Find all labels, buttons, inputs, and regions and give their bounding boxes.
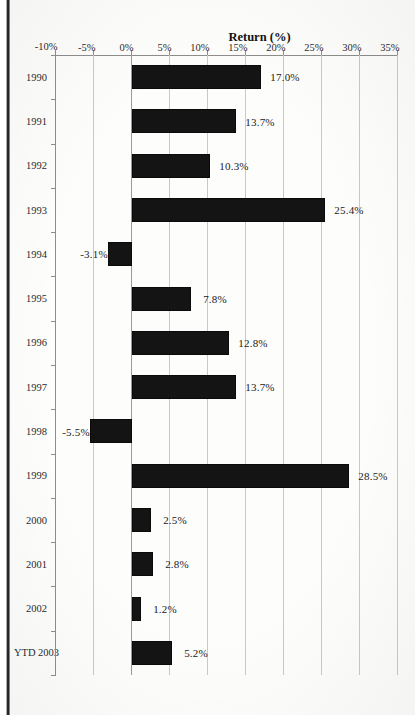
category-label-text: 1993 xyxy=(26,205,47,216)
bar-value-label-text: -5.5% xyxy=(62,425,90,437)
gridline xyxy=(131,55,132,675)
category-axis-line xyxy=(55,55,56,675)
bar-value-label-text: 13.7% xyxy=(245,115,274,127)
category-label: 1991 xyxy=(31,97,42,145)
bar xyxy=(132,287,191,311)
gridline xyxy=(321,55,322,675)
bar xyxy=(132,597,141,621)
value-axis-tick-label: 30% xyxy=(356,28,367,47)
bar xyxy=(90,419,132,443)
value-axis-tick-label-text: 10% xyxy=(190,42,209,53)
category-label-text: 1994 xyxy=(26,249,47,260)
bar-value-label-text: 2.5% xyxy=(163,514,187,526)
gridline xyxy=(359,55,360,675)
category-label: 1996 xyxy=(31,319,42,367)
gridline xyxy=(397,55,398,675)
bar-value-label: 10.3% xyxy=(228,150,240,182)
bar-value-label: 1.2% xyxy=(159,593,171,625)
value-axis-tick-label: -10% xyxy=(52,24,63,47)
category-label: 1990 xyxy=(31,53,42,101)
category-label: 2000 xyxy=(31,496,42,544)
category-label-text: 1991 xyxy=(26,116,47,127)
value-axis-tick-label-text: 30% xyxy=(342,42,361,53)
bar-value-label: 13.7% xyxy=(254,105,266,137)
value-axis-tick-label: 0% xyxy=(128,33,139,47)
bar xyxy=(132,552,153,576)
value-axis-tick-label: 35% xyxy=(394,28,405,47)
bar-value-label-text: 25.4% xyxy=(334,204,363,216)
rotated-chart-wrapper: 35%30%25%20%15%10%5%0%-5%-10% 17.0%13.7%… xyxy=(0,0,415,715)
category-label: 1993 xyxy=(31,186,42,234)
value-axis-tick-label-text: 35% xyxy=(380,42,399,53)
category-label: 1995 xyxy=(31,275,42,323)
gridline xyxy=(283,55,284,675)
value-axis-tick-label-text: 25% xyxy=(304,42,323,53)
category-label: 1994 xyxy=(31,230,42,278)
bar-value-label: 17.0% xyxy=(279,61,291,93)
bar xyxy=(108,242,132,266)
bar-value-label-text: -3.1% xyxy=(81,248,109,260)
category-label-text: 1992 xyxy=(26,160,47,171)
gridline xyxy=(169,55,170,675)
bar-value-label-text: 7.8% xyxy=(203,293,227,305)
value-axis-tick-label-text: -10% xyxy=(35,42,58,53)
category-label: 1992 xyxy=(31,142,42,190)
bar xyxy=(132,109,236,133)
value-axis-tick-label-text: 5% xyxy=(158,42,172,53)
bar-value-label: 7.8% xyxy=(209,283,221,315)
value-axis-tick-label: 10% xyxy=(204,28,215,47)
bar-value-label: -3.1% xyxy=(88,238,100,270)
category-label-text: 1998 xyxy=(26,426,47,437)
bar-value-label-text: 12.8% xyxy=(239,337,268,349)
value-axis-line xyxy=(56,55,398,56)
category-label-text: 2000 xyxy=(26,515,47,526)
value-axis-tick-label: 5% xyxy=(166,33,177,47)
bar xyxy=(132,154,210,178)
bar-value-label: 28.5% xyxy=(367,460,379,492)
gridline xyxy=(93,55,94,675)
bar xyxy=(132,65,261,89)
bar-value-label-text: 1.2% xyxy=(153,603,177,615)
category-label-text: YTD 2003 xyxy=(14,647,59,658)
bar-value-label-text: 13.7% xyxy=(245,381,274,393)
bar xyxy=(132,375,236,399)
bar xyxy=(132,198,325,222)
bar-chart: 35%30%25%20%15%10%5%0%-5%-10% 17.0%13.7%… xyxy=(0,0,415,715)
category-label: 1997 xyxy=(31,363,42,411)
bar-value-label: 2.8% xyxy=(171,548,183,580)
category-axis-tick xyxy=(51,675,56,676)
bar xyxy=(132,464,349,488)
bar xyxy=(132,641,172,665)
category-label: 2001 xyxy=(31,540,42,588)
bar-value-label: 2.5% xyxy=(169,504,181,536)
gridline xyxy=(207,55,208,675)
category-label-text: 1995 xyxy=(26,293,47,304)
category-label-text: 1996 xyxy=(26,337,47,348)
bar-value-label: 25.4% xyxy=(343,194,355,226)
value-axis-title-text: Return (%) xyxy=(228,30,290,45)
value-axis-tick-label: 25% xyxy=(318,28,329,47)
bar xyxy=(132,331,229,355)
value-axis-tick-label-text: 0% xyxy=(120,42,134,53)
category-label-text: 1990 xyxy=(26,72,47,83)
category-label: 2002 xyxy=(31,585,42,633)
bar-value-label-text: 28.5% xyxy=(358,470,387,482)
category-label: 1999 xyxy=(31,452,42,500)
gridline xyxy=(245,55,246,675)
value-axis-tick-label: -5% xyxy=(90,30,101,48)
category-label-text: 2001 xyxy=(26,559,47,570)
bar-value-label-text: 10.3% xyxy=(220,160,249,172)
value-axis-tick-label-text: -5% xyxy=(78,42,96,53)
bar xyxy=(132,508,151,532)
bar-value-label: 5.2% xyxy=(190,637,202,669)
category-label-text: 1999 xyxy=(26,470,47,481)
category-label-text: 1997 xyxy=(26,382,47,393)
value-axis-title: Return (%) xyxy=(252,6,267,26)
bar-value-label-text: 5.2% xyxy=(184,647,208,659)
bar-value-label: 12.8% xyxy=(247,327,259,359)
category-label-text: 2002 xyxy=(26,603,47,614)
plot-area: 35%30%25%20%15%10%5%0%-5%-10% 17.0%13.7%… xyxy=(56,55,398,675)
category-label: YTD 2003 xyxy=(31,629,42,677)
page-binding-shadow xyxy=(6,0,10,715)
bar-value-label: 13.7% xyxy=(254,371,266,403)
